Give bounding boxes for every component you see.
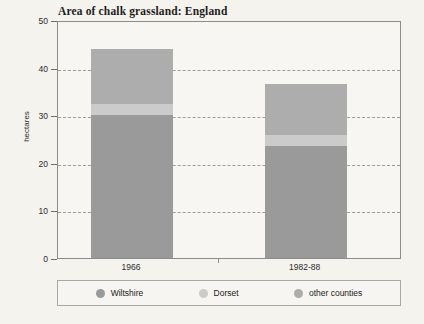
legend-item-label: Wiltshire bbox=[111, 288, 144, 298]
legend-item-label: other counties bbox=[309, 288, 362, 298]
y-axis-tick-label: 10 bbox=[2, 206, 48, 216]
x-axis-tick-label-1966: 1966 bbox=[121, 262, 140, 272]
bar-segment-other-counties[interactable] bbox=[91, 49, 173, 105]
legend-swatch-circle-icon bbox=[294, 289, 303, 298]
legend-item-wiltshire[interactable]: Wiltshire bbox=[96, 288, 144, 298]
bar-segment-wiltshire[interactable] bbox=[91, 115, 173, 258]
legend-swatch-circle-icon bbox=[96, 289, 105, 298]
y-axis-tick-label: 30 bbox=[2, 111, 48, 121]
bar-segment-other-counties[interactable] bbox=[265, 84, 347, 134]
bar-segment-wiltshire[interactable] bbox=[265, 146, 347, 258]
chart-figure: Area of chalk grassland: England hectare… bbox=[0, 0, 424, 324]
legend-item-label: Dorset bbox=[214, 288, 239, 298]
bar-1966[interactable] bbox=[91, 21, 173, 258]
page-title: Area of chalk grassland: England bbox=[58, 5, 227, 17]
y-axis-tick-0 bbox=[51, 259, 57, 260]
bar-1982-88[interactable] bbox=[265, 21, 347, 258]
plot-area bbox=[57, 21, 401, 259]
x-axis-tick-label-1982-88: 1982-88 bbox=[289, 262, 320, 272]
legend-item-dorset[interactable]: Dorset bbox=[199, 288, 239, 298]
y-axis-tick-label: 40 bbox=[2, 64, 48, 74]
y-axis-tick-label: 20 bbox=[2, 159, 48, 169]
y-axis-tick-label: 0 bbox=[2, 254, 48, 264]
legend-swatch-circle-icon bbox=[199, 289, 208, 298]
y-axis-title: hectares bbox=[22, 97, 31, 157]
x-axis-tick-center bbox=[218, 259, 219, 263]
plot-inner bbox=[58, 22, 400, 258]
chart-legend: WiltshireDorsetother counties bbox=[57, 280, 401, 306]
bar-segment-dorset[interactable] bbox=[265, 135, 347, 146]
y-axis-tick-label: 50 bbox=[2, 16, 48, 26]
bar-segment-dorset[interactable] bbox=[91, 104, 173, 115]
legend-item-other-counties[interactable]: other counties bbox=[294, 288, 362, 298]
